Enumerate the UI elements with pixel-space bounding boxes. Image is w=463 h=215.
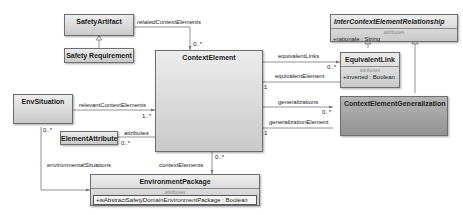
class-equivalent-link[interactable]: EquivalentLink attributes +inverted : Bo… — [340, 52, 400, 88]
mult-environmental-situations: 0..* — [43, 127, 52, 134]
class-element-attribute[interactable]: ElementAttribute — [60, 131, 118, 145]
class-name: EnvSituation — [14, 95, 72, 106]
mult-context-elements: 0..* — [215, 154, 224, 161]
class-name: EquivalentLink — [341, 53, 399, 64]
class-context-element-generalization[interactable]: ContextElementGeneralization — [340, 96, 448, 136]
role-relevant-context-elements: relevantContextElements — [79, 102, 146, 109]
mult-relevant-context-elements: 1..* — [142, 113, 151, 120]
mult-related-context-elements: 0..* — [193, 41, 202, 48]
mult-generalization-element: 1 — [264, 130, 267, 137]
attribute-rationale: +rationale : String — [331, 35, 457, 43]
class-env-situation[interactable]: EnvSituation — [13, 94, 73, 124]
role-equivalent-element: equivalentElement — [275, 73, 324, 80]
class-context-element[interactable]: ContextElement — [155, 50, 263, 152]
attribute-is-abstract: +isAbstractSafetyDomainEnvironmentPackag… — [93, 195, 257, 205]
mult-generalizations: 0..* — [322, 109, 331, 116]
class-name: ElementAttribute — [61, 132, 117, 143]
class-name: Safety Requirement — [65, 49, 133, 60]
class-name: EnvironmentPackage — [91, 175, 259, 186]
role-generalizations: generalizations — [278, 99, 318, 106]
role-equivalent-links: equivalentLinks — [278, 53, 319, 60]
mult-attributes: 0..* — [121, 140, 130, 147]
class-name: ContextElementGeneralization — [341, 97, 447, 108]
class-environment-package[interactable]: EnvironmentPackage attributes +isAbstrac… — [90, 174, 260, 206]
attribute-inverted: +inverted : Boolean — [341, 73, 399, 81]
role-generalization-element: generalizationElement — [269, 119, 328, 126]
class-safety-requirement[interactable]: Safety Requirement — [64, 48, 134, 63]
role-attributes: attributes — [124, 130, 149, 137]
class-inter-context-element-relationship[interactable]: InterContextElementRelationship attribut… — [330, 14, 458, 42]
mult-equivalent-links: 0..* — [327, 64, 336, 71]
role-environmental-situations: environmentalSituations — [47, 162, 111, 169]
mult-equivalent-element: 1 — [264, 84, 267, 91]
class-safety-artifact[interactable]: SafetyArtifact — [64, 14, 134, 36]
role-context-elements: contextElements — [159, 162, 203, 169]
class-name: SafetyArtifact — [65, 15, 133, 26]
role-related-context-elements: relatedContextElements — [137, 19, 201, 26]
class-name: InterContextElementRelationship — [331, 15, 457, 26]
class-name: ContextElement — [156, 51, 262, 62]
